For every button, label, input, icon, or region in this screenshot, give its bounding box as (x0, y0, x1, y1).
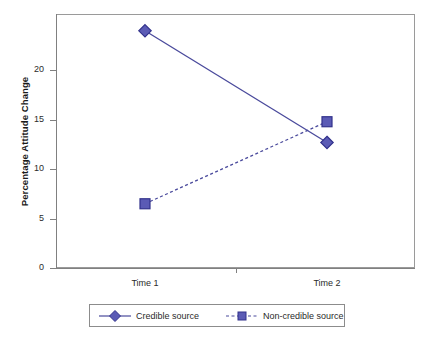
series-line (145, 31, 327, 143)
legend-entry-credible-source[interactable]: Credible source (98, 305, 199, 326)
series-credible-source (139, 25, 333, 149)
legend-entry-non-credible-source[interactable]: Non-credible source (225, 305, 344, 326)
x-axis-center-tick (236, 268, 237, 273)
legend-key-square-dashed (225, 309, 259, 323)
y-tick-label-10: 10 (0, 164, 44, 174)
x-tick-label-time-1: Time 1 (105, 278, 185, 288)
series-non-credible-source (140, 117, 332, 209)
data-point-marker (140, 199, 150, 209)
y-tick-label-15: 15 (0, 115, 44, 125)
x-tick-label-time-2: Time 2 (287, 278, 367, 288)
series-layer (56, 14, 415, 268)
y-tick-mark-0 (50, 268, 56, 269)
data-point-marker (322, 117, 332, 127)
y-tick-text-0: 0 (0, 263, 44, 272)
y-tick-text-20: 20 (0, 65, 44, 74)
y-tick-label-5: 5 (0, 214, 44, 224)
line-chart-figure: Percentage Attitude Change 05101520 Time… (0, 0, 429, 341)
y-axis-title: Percentage Attitude Change (19, 57, 30, 227)
y-tick-label-20: 20 (0, 65, 44, 75)
y-tick-text-10: 10 (0, 164, 44, 173)
legend-label-non-credible-source: Non-credible source (263, 311, 344, 321)
legend-key-diamond-solid (98, 309, 132, 323)
y-tick-text-15: 15 (0, 115, 44, 124)
chart-legend: Credible source Non-credible source (89, 304, 345, 327)
data-point-marker (321, 136, 333, 148)
y-tick-text-5: 5 (0, 214, 44, 223)
y-tick-label-0: 0 (0, 263, 44, 273)
legend-label-credible-source: Credible source (136, 311, 199, 321)
series-line (145, 122, 327, 204)
data-point-marker (139, 25, 151, 37)
